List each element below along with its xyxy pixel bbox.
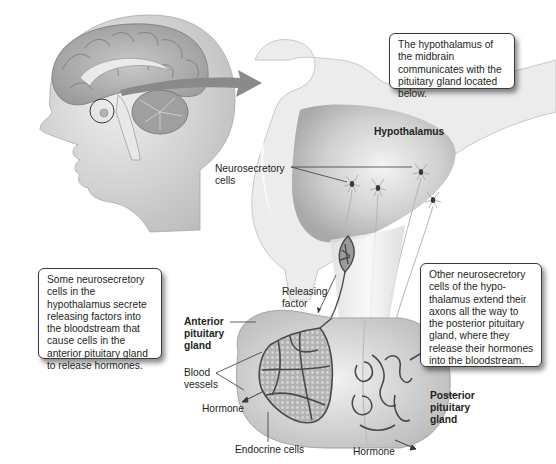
label-blood-vessels-line1: Blood [184, 367, 210, 379]
head-illustration [40, 15, 235, 232]
label-posterior-pituitary-line1: Posterior [430, 390, 475, 402]
label-hypothalamus: Hypothalamus [374, 126, 444, 138]
label-posterior-pituitary-line3: gland [430, 414, 457, 426]
label-anterior-pituitary-line3: gland [184, 340, 211, 352]
label-releasing-factor-line2: factor [282, 298, 307, 310]
label-endocrine-cells: Endocrine cells [235, 444, 304, 456]
label-hormone-anterior: Hormone [202, 403, 244, 415]
label-anterior-pituitary-line1: Anterior [184, 316, 224, 328]
pituitary-stalk [330, 225, 405, 330]
label-anterior-pituitary-line2: pituitary [184, 328, 224, 340]
label-blood-vessels-line2: vessels [184, 379, 218, 391]
diagram-canvas: The hypothalamus of the midbrain communi… [0, 0, 556, 464]
callout-hypothalamus-communicates: The hypothalamus of the midbrain communi… [389, 33, 515, 89]
label-hormone-posterior: Hormone [353, 446, 395, 458]
callout-posterior-axons: Other neurosecretory cells of the hypo-t… [420, 263, 542, 367]
label-posterior-pituitary-line2: pituitary [430, 402, 470, 414]
label-releasing-factor-line1: Releasing [282, 286, 327, 298]
callout-releasing-factors: Some neurosecretory cells in the hypotha… [38, 268, 162, 359]
label-neurosecretory-cells-line2: cells [215, 175, 235, 187]
label-neurosecretory-cells-line1: Neurosecretory [215, 163, 285, 175]
